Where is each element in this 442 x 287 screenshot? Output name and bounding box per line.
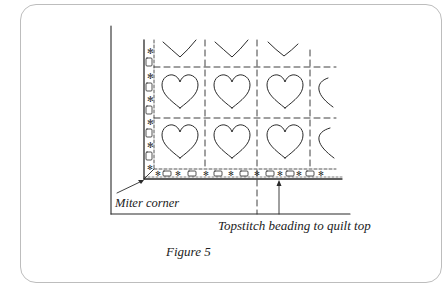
- miter-arrow-line: [117, 181, 142, 193]
- svg-text:✻: ✻: [147, 164, 153, 172]
- miter-corner-label: Miter corner: [115, 196, 179, 211]
- svg-text:✻: ✻: [147, 118, 154, 127]
- svg-text:✻: ✻: [318, 170, 324, 178]
- svg-text:✻: ✻: [147, 141, 154, 150]
- heart-motifs: [162, 75, 334, 158]
- bottom-beading: ✻ ✻ ✻ ✻ ✻ ✻ ✻ ✻: [155, 170, 324, 178]
- left-beading: ✻ ✻ ✻ ✻ ✻ ✻: [146, 47, 154, 172]
- svg-text:✻: ✻: [203, 170, 209, 178]
- svg-text:✻: ✻: [254, 170, 260, 178]
- svg-text:✻: ✻: [147, 72, 154, 81]
- svg-text:✻: ✻: [147, 47, 154, 56]
- figure-caption: Figure 5: [166, 244, 211, 260]
- svg-text:✻: ✻: [155, 170, 161, 178]
- svg-text:✻: ✻: [147, 95, 154, 104]
- svg-text:✻: ✻: [228, 170, 234, 178]
- svg-text:✻: ✻: [175, 170, 181, 178]
- svg-text:✻: ✻: [296, 170, 302, 178]
- svg-text:✻: ✻: [277, 170, 283, 178]
- topstitch-arrow-head-icon: [277, 180, 282, 186]
- topstitch-label: Topstitch beading to quilt top: [218, 218, 371, 234]
